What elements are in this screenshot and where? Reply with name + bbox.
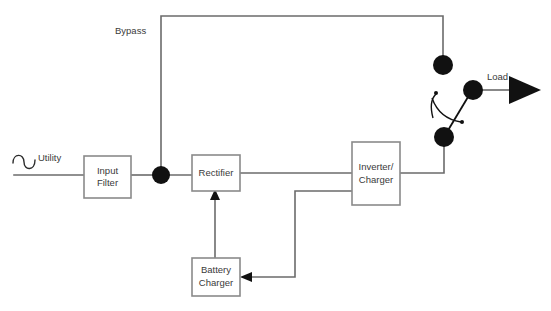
inverter-charger-label-line2: Charger [359, 174, 393, 185]
transfer-switch-arc-up-tip [434, 91, 438, 95]
battery-charger-label-line2: Charger [199, 277, 233, 288]
battery-charger-block[interactable]: Battery Charger [192, 258, 240, 296]
input-filter-label-line1: Input [97, 165, 118, 176]
inverter-to-charger-arrow-icon [240, 272, 252, 282]
rectifier-label: Rectifier [199, 167, 234, 178]
junction-node [152, 166, 170, 184]
inverter-charger-block[interactable]: Inverter/ Charger [352, 142, 400, 205]
inverter-switch-contact-node[interactable] [434, 127, 454, 147]
input-filter-block[interactable]: Input Filter [84, 156, 131, 198]
input-filter-label-line2: Filter [97, 177, 118, 188]
diagram-canvas: Input Filter Rectifier Inverter/ Charger… [0, 0, 551, 311]
transfer-switch-arc-down [432, 98, 461, 122]
bypass-switch-contact-node[interactable] [433, 55, 453, 75]
sine-wave-icon [13, 155, 35, 168]
load-label: Load [487, 71, 508, 82]
utility-label: Utility [38, 152, 61, 163]
ups-block-diagram: Input Filter Rectifier Inverter/ Charger… [0, 0, 551, 311]
inverter-to-battery-charger-wire [248, 191, 352, 277]
transfer-switch-arc-down-tip [460, 120, 464, 124]
inverter-charger-label-line1: Inverter/ [359, 161, 394, 172]
bypass-label: Bypass [115, 25, 146, 36]
load-pole-node[interactable] [463, 80, 483, 100]
rectifier-block[interactable]: Rectifier [192, 155, 240, 191]
load-output-arrow-icon [509, 76, 541, 104]
battery-charger-label-line1: Battery [201, 264, 231, 275]
